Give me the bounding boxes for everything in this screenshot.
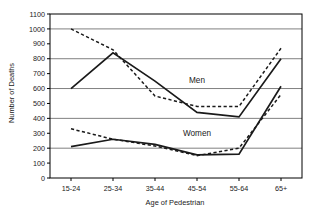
x-tick-label: 45-54 (188, 184, 206, 193)
y-tick-label: 600 (33, 84, 45, 93)
y-tick-label: 100 (33, 159, 45, 168)
y-tick-label: 500 (33, 99, 45, 108)
y-tick-label: 900 (33, 39, 45, 48)
y-tick-label: 1000 (29, 25, 45, 34)
y-tick-label: 800 (33, 54, 45, 63)
y-axis-title: Number of Deaths (7, 63, 16, 123)
x-tick-label: 15-24 (62, 184, 80, 193)
series-annotation-women: Women (183, 129, 212, 138)
chart-container: 010020030040050060070080090010001100 15-… (0, 0, 309, 216)
y-tick-label: 1100 (30, 10, 45, 19)
y-tick-label: 200 (33, 144, 45, 153)
y-tick-label: 300 (33, 129, 45, 138)
x-tick-label: 25-34 (104, 184, 122, 193)
y-tick-label: 700 (33, 69, 45, 78)
y-tick-label: 0 (41, 174, 45, 183)
y-tick-label: 400 (33, 114, 45, 123)
x-tick-label: 55-64 (230, 184, 248, 193)
x-tick-label: 65+ (275, 184, 287, 193)
series-annotation-men: Men (189, 76, 205, 85)
x-axis-title: Age of Pedestrian (146, 198, 205, 207)
line-chart: 010020030040050060070080090010001100 15-… (0, 0, 309, 216)
x-tick-label: 35-44 (146, 184, 164, 193)
